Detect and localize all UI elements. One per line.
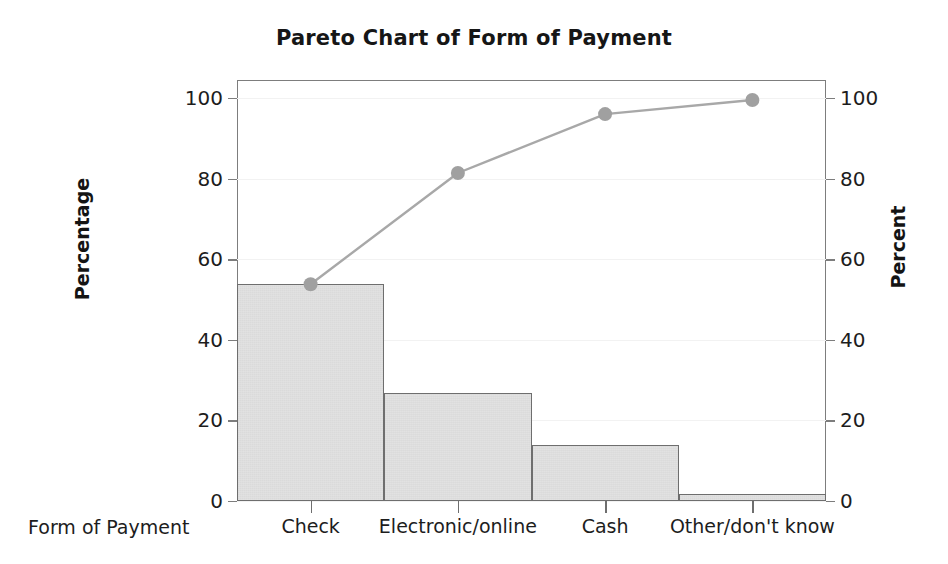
y-axis-right-tick-label: 100 (840, 86, 878, 110)
x-axis-tick (311, 501, 313, 513)
y-axis-left-tick (228, 179, 237, 180)
y-axis-right-tick (826, 340, 835, 341)
x-axis-tick (752, 501, 754, 513)
y-axis-right-tick-label: 80 (840, 167, 865, 191)
bar (532, 445, 679, 501)
gridline (237, 259, 826, 260)
y-axis-left-tick-label: 20 (198, 408, 223, 432)
y-axis-left-tick (228, 259, 237, 260)
plot-area (237, 98, 826, 501)
bar (384, 393, 531, 501)
x-axis-category-label: Electronic/online (379, 515, 537, 537)
x-axis-ticks (237, 501, 826, 515)
gridline (237, 98, 826, 99)
bar (679, 494, 826, 501)
x-axis-category-label: Check (281, 515, 339, 537)
y-axis-right-tick (826, 179, 835, 180)
y-axis-left-tick (228, 98, 237, 99)
x-axis-category-label: Cash (582, 515, 629, 537)
y-axis-left-tick-label: 100 (185, 86, 223, 110)
y-axis-right-tick (826, 98, 835, 99)
x-axis-title: Form of Payment (28, 516, 189, 538)
pareto-chart: Pareto Chart of Form of Payment 02040608… (0, 0, 948, 564)
y-axis-left-tick-label: 0 (210, 489, 223, 513)
y-axis-left-tick-label: 80 (198, 167, 223, 191)
y-axis-right-tick-label: 0 (840, 489, 853, 513)
y-axis-left-tick-label: 60 (198, 247, 223, 271)
y-axis-left-tick (228, 420, 237, 421)
cumulative-line (311, 100, 753, 284)
cumulative-point-marker (598, 107, 612, 121)
y-axis-right-tick (826, 501, 835, 502)
y-axis-left-tick (228, 501, 237, 502)
y-axis-right-tick-label: 40 (840, 328, 865, 352)
y-axis-right-title: Percent (887, 147, 909, 347)
y-axis-right-tick-label: 20 (840, 408, 865, 432)
y-axis-left-tick (228, 340, 237, 341)
y-axis-left: 020406080100 (157, 98, 237, 501)
bar (237, 284, 384, 501)
x-axis-category-label: Other/don't know (670, 515, 835, 537)
chart-title: Pareto Chart of Form of Payment (0, 26, 948, 50)
y-axis-right-tick-label: 60 (840, 247, 865, 271)
y-axis-left-title: Percentage (71, 139, 93, 339)
y-axis-right-tick (826, 259, 835, 260)
y-axis-right-tick (826, 420, 835, 421)
x-axis-tick (605, 501, 607, 513)
y-axis-left-tick-label: 40 (198, 328, 223, 352)
x-axis-tick (458, 501, 460, 513)
x-axis-category-labels: CheckElectronic/onlineCashOther/don't kn… (237, 515, 826, 549)
gridline (237, 179, 826, 180)
